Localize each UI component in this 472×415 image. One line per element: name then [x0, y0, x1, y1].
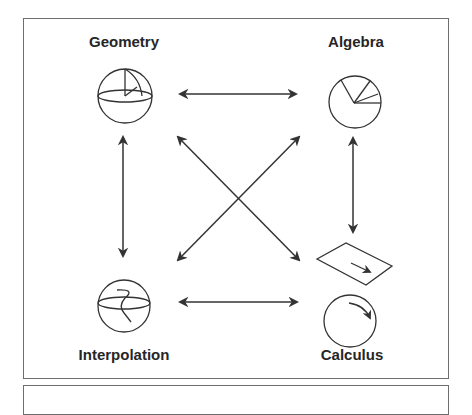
- pie-circle-icon: [329, 76, 381, 128]
- sphere-with-curve-icon: [98, 280, 150, 332]
- sphere-with-spherical-triangle-icon: [98, 69, 152, 123]
- plane-and-circle-with-arrows-icon: [317, 243, 392, 347]
